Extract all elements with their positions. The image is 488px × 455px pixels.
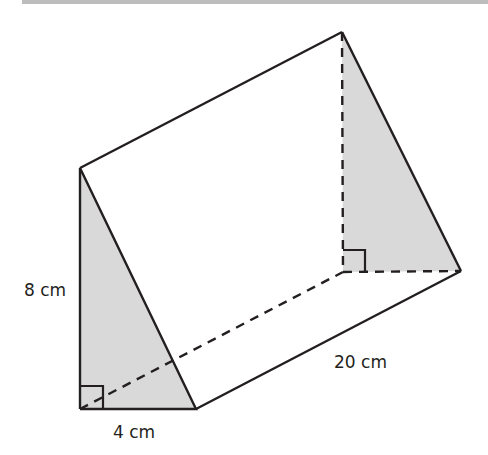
base-label: 4 cm (113, 422, 155, 442)
length-label: 20 cm (334, 352, 387, 372)
height-label: 8 cm (24, 280, 66, 300)
triangular-prism-diagram: 8 cm 4 cm 20 cm (0, 0, 488, 455)
